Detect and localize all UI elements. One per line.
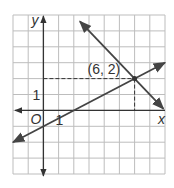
y-tick-label: 1 xyxy=(32,87,40,103)
x-axis-label: x xyxy=(157,111,166,127)
origin-label: O xyxy=(30,111,41,127)
intersection-point xyxy=(132,76,137,81)
intersection-label: (6, 2) xyxy=(88,61,121,77)
x-tick-label: 1 xyxy=(56,112,64,128)
coordinate-graph: y x O 1 1 (6, 2) xyxy=(0,0,174,188)
y-axis-label: y xyxy=(30,12,39,28)
